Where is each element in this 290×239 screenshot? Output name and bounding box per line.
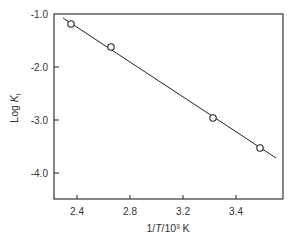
- y-tick-label: -4.0: [31, 168, 49, 179]
- data-point: [210, 115, 216, 121]
- chart-root: -1.0 -2.0 -3.0 -4.0 2.4 2.8 3.2 3.4 1/T/…: [0, 0, 290, 239]
- x-tick-label: 2.4: [70, 206, 84, 217]
- y-axis-title: Log KI: [8, 93, 22, 122]
- plot-frame: [54, 14, 283, 199]
- x-axis-title: 1/T/10³ K: [146, 222, 189, 234]
- data-point: [257, 145, 263, 151]
- fit-line: [63, 18, 276, 158]
- x-tick-label: 2.8: [123, 206, 137, 217]
- data-point: [108, 44, 114, 50]
- data-point: [68, 21, 74, 27]
- y-tick-label: -3.0: [31, 115, 49, 126]
- x-tick-label: 3.2: [176, 206, 190, 217]
- x-axis: 2.4 2.8 3.2 3.4: [70, 195, 243, 217]
- x-tick-label: 3.4: [229, 206, 243, 217]
- y-tick-label: -2.0: [31, 62, 49, 73]
- y-axis: -1.0 -2.0 -3.0 -4.0: [31, 9, 59, 179]
- y-tick-label: -1.0: [31, 9, 49, 20]
